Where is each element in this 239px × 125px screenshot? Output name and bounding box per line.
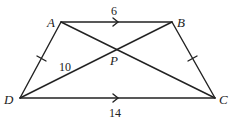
vertex-label-b: B bbox=[177, 15, 185, 30]
vertex-label-d: D bbox=[3, 92, 14, 107]
point-label-p: P bbox=[109, 53, 118, 68]
diagonal-ac bbox=[61, 22, 215, 98]
vertex-label-a: A bbox=[46, 15, 55, 30]
length-ab-label: 6 bbox=[111, 4, 117, 18]
tick-mark-icon-bc bbox=[188, 56, 197, 61]
side-ad bbox=[20, 22, 61, 98]
vertex-label-c: C bbox=[219, 92, 228, 107]
side-bc bbox=[172, 22, 215, 98]
trapezoid-diagram: A B C D P 6 14 10 bbox=[0, 0, 239, 125]
length-dp-label: 10 bbox=[59, 60, 71, 74]
length-dc-label: 14 bbox=[109, 106, 121, 120]
